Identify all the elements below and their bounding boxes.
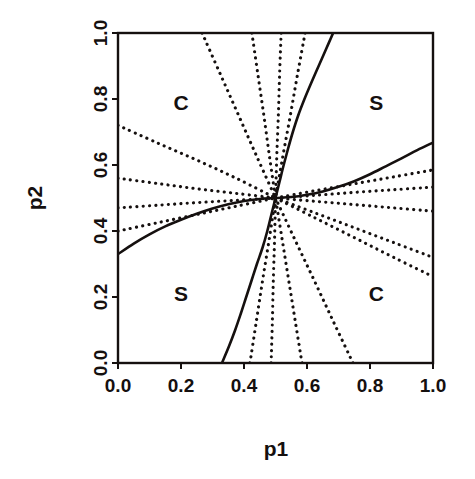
y-tick-label: 1.0 (90, 20, 111, 46)
x-axis-title: p1 (264, 437, 289, 460)
x-tick-label: 0.0 (105, 375, 131, 396)
region-label-s: S (174, 282, 188, 305)
y-axis-title: p2 (23, 186, 46, 211)
y-tick-label: 0.6 (90, 152, 111, 178)
phase-diagram-plot: 0.00.20.40.60.81.0 0.00.20.40.60.81.0 CS… (0, 0, 475, 479)
y-tick-label: 0.8 (90, 86, 111, 112)
region-label-c: C (173, 91, 188, 114)
y-tick-label: 0.4 (90, 217, 111, 244)
y-tick-label: 0.2 (90, 284, 111, 310)
y-tick-label: 0.0 (90, 350, 111, 376)
plot-background (0, 0, 475, 479)
x-tick-label: 0.8 (357, 375, 383, 396)
x-tick-label: 0.6 (294, 375, 320, 396)
region-label-s: S (369, 91, 383, 114)
x-tick-label: 0.4 (231, 375, 258, 396)
chart-figure: 0.00.20.40.60.81.0 0.00.20.40.60.81.0 CS… (0, 0, 475, 479)
region-label-c: C (369, 282, 384, 305)
x-tick-label: 1.0 (420, 375, 446, 396)
x-tick-label: 0.2 (168, 375, 194, 396)
